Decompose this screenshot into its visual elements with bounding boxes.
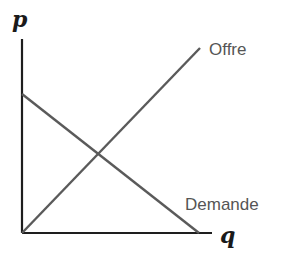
supply-label: Offre: [209, 41, 246, 58]
demand-label: Demande: [185, 196, 259, 213]
demand-line: [22, 94, 199, 233]
x-axis-label: q: [220, 224, 235, 246]
diagram-canvas: [0, 0, 293, 258]
supply-line: [22, 48, 200, 233]
y-axis-label: p: [12, 8, 27, 30]
supply-demand-diagram: p q Offre Demande: [0, 0, 293, 258]
